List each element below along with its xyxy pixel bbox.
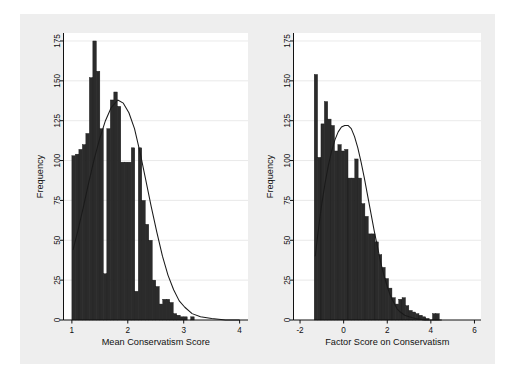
- left-x-tick-label: 2: [126, 326, 131, 335]
- right-bar: [402, 298, 405, 320]
- right-y-tick-label: 150: [283, 74, 292, 88]
- left-y-tick-label: 25: [53, 275, 62, 285]
- left-y-tick-label: 100: [53, 153, 62, 167]
- right-y-tick-label: 75: [283, 195, 292, 205]
- left-bar: [170, 302, 173, 320]
- left-y-tick-label: 75: [53, 195, 62, 205]
- left-x-tick-label: 1: [70, 326, 75, 335]
- histogram-figure: 02550751001251501751234Mean Conservatism…: [0, 0, 505, 384]
- left-y-tick-label: 125: [53, 113, 62, 127]
- right-bar: [372, 234, 375, 320]
- left-y-tick-label: 175: [53, 34, 62, 48]
- right-bar: [341, 151, 344, 320]
- right-bar: [328, 119, 331, 320]
- left-bar: [149, 240, 152, 320]
- right-y-tick-label: 25: [283, 275, 292, 285]
- right-bar: [405, 306, 408, 320]
- left-bar: [177, 315, 180, 320]
- right-y-tick-label: 50: [283, 235, 292, 245]
- right-bar: [314, 74, 317, 320]
- left-bar: [131, 148, 134, 320]
- right-bar: [368, 234, 371, 320]
- right-y-tick-label: 0: [283, 317, 292, 322]
- right-y-axis-title: Frequency: [265, 154, 275, 198]
- left-bar: [163, 299, 166, 320]
- left-bar: [166, 299, 169, 320]
- left-bar: [121, 162, 124, 320]
- right-bar: [334, 151, 337, 320]
- left-x-tick-label: 4: [237, 326, 242, 335]
- right-histogram-panel: 0255075100125150175-20246Factor Score on…: [265, 33, 482, 347]
- left-bar: [128, 162, 131, 320]
- right-bar: [355, 159, 358, 320]
- left-bar: [96, 71, 99, 320]
- right-bar: [331, 125, 334, 320]
- right-bar: [399, 299, 402, 320]
- right-bar: [365, 216, 368, 320]
- left-y-tick-label: 0: [53, 317, 62, 322]
- left-bar: [145, 224, 148, 320]
- right-bar: [318, 157, 321, 320]
- left-bar: [124, 162, 127, 320]
- right-x-axis-title: Factor Score on Conservatism: [325, 337, 449, 347]
- right-bar: [409, 310, 412, 320]
- right-bar: [338, 145, 341, 320]
- left-x-axis-title: Mean Conservatism Score: [102, 337, 210, 347]
- right-x-tick-label: 4: [429, 326, 434, 335]
- right-bar: [324, 102, 327, 320]
- right-bar: [432, 314, 435, 320]
- right-bar: [345, 149, 348, 320]
- left-bar: [93, 41, 96, 320]
- left-y-axis-title: Frequency: [35, 154, 45, 198]
- left-y-tick-label: 50: [53, 235, 62, 245]
- left-bar: [117, 106, 120, 320]
- left-bar: [89, 78, 92, 320]
- right-bar: [348, 178, 351, 320]
- right-y-tick-label: 100: [283, 153, 292, 167]
- right-bar: [362, 204, 365, 320]
- right-bar: [358, 178, 361, 320]
- right-x-tick-label: 2: [385, 326, 390, 335]
- right-bar: [436, 314, 439, 320]
- left-bar: [138, 148, 141, 320]
- left-histogram-panel: 02550751001251501751234Mean Conservatism…: [35, 33, 249, 347]
- left-bar: [135, 291, 138, 320]
- left-y-tick-label: 150: [53, 74, 62, 88]
- right-x-tick-label: 6: [472, 326, 477, 335]
- right-bar: [375, 242, 378, 320]
- left-bar: [72, 156, 75, 320]
- left-bar: [107, 129, 110, 320]
- left-bar: [79, 149, 82, 320]
- left-bar: [86, 133, 89, 320]
- left-bar: [173, 314, 176, 320]
- right-y-tick-label: 175: [283, 34, 292, 48]
- right-bar: [351, 178, 354, 320]
- right-x-tick-label: 0: [341, 326, 346, 335]
- right-x-tick-label: -2: [296, 326, 304, 335]
- left-bar: [142, 200, 145, 320]
- left-bar: [82, 145, 85, 320]
- left-bar: [110, 100, 113, 320]
- left-x-tick-label: 3: [181, 326, 186, 335]
- left-bar: [100, 129, 103, 320]
- right-y-tick-label: 125: [283, 113, 292, 127]
- left-bar: [103, 274, 106, 320]
- left-bar: [114, 92, 117, 320]
- right-bar: [321, 124, 324, 320]
- left-bar: [159, 304, 162, 320]
- left-bar: [156, 287, 159, 320]
- left-bar: [152, 280, 155, 320]
- figure-container: 02550751001251501751234Mean Conservatism…: [0, 0, 505, 384]
